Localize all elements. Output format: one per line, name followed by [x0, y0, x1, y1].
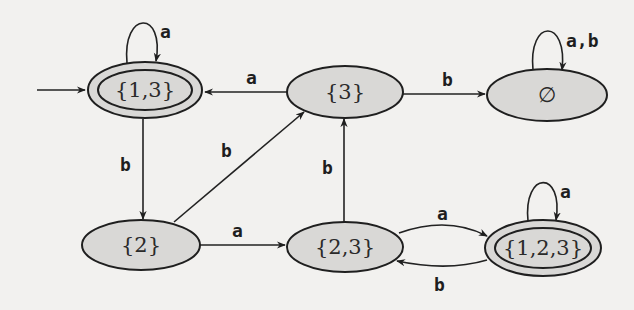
edge-loop-s13: [127, 23, 158, 63]
edge-s123-s23: [397, 260, 487, 266]
edge-label-s123-s23: b: [434, 274, 445, 295]
diagram-svg: a a b a,b b b a b a b a {1,3} {3} ∅ {2}: [0, 0, 634, 310]
state-s3: {3}: [287, 66, 403, 118]
state-label-s123: {1,2,3}: [503, 236, 583, 260]
edge-label-s23-s123: a: [437, 203, 448, 224]
state-s123: {1,2,3}: [485, 220, 601, 276]
edge-loop-empty: [533, 31, 563, 70]
automaton-diagram: a a b a,b b b a b a b a {1,3} {3} ∅ {2}: [0, 0, 634, 310]
state-label-s3: {3}: [325, 80, 365, 104]
edge-label-s3-empty: b: [442, 69, 453, 90]
state-s2: {2}: [82, 220, 200, 270]
edge-label-s13-s2: b: [120, 154, 131, 175]
edge-label-loop-empty: a,b: [566, 30, 599, 51]
state-empty: ∅: [487, 69, 607, 121]
state-label-empty: ∅: [538, 83, 556, 107]
state-label-s13: {1,3}: [115, 78, 175, 102]
edge-s2-s3: [174, 112, 304, 222]
edge-label-s23-s3: b: [322, 157, 333, 178]
edge-loop-s123: [528, 183, 557, 221]
edge-label-s2-s23: a: [232, 220, 243, 241]
edge-label-loop-s13: a: [160, 21, 171, 42]
edge-s23-s123: [399, 225, 487, 236]
state-s23: {2,3}: [287, 222, 403, 272]
state-s13: {1,3}: [88, 62, 202, 118]
edge-label-s2-s3: b: [221, 140, 232, 161]
edge-label-s3-s13: a: [246, 67, 257, 88]
edge-label-loop-s123: a: [560, 181, 571, 202]
state-label-s2: {2}: [121, 233, 161, 257]
state-label-s23: {2,3}: [315, 235, 375, 259]
